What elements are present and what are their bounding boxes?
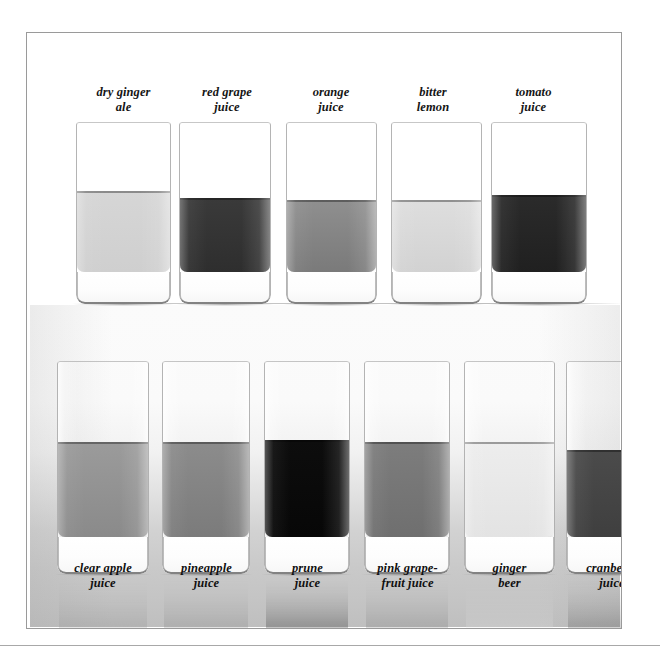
glass-label: cranberry juice [560,561,622,591]
glass-liquid [567,450,622,537]
glass-body [179,122,271,304]
glass-liquid [77,191,170,272]
glass-base [287,272,376,304]
glass-liquid [265,440,349,537]
glass-base [492,272,586,304]
glass-label: red grape juice [179,85,275,115]
glass-body [464,361,555,574]
page-bottom-rule [0,645,660,646]
glass-body [162,361,250,574]
glass-base [392,272,481,304]
glass-body [364,361,450,574]
juice-glass [76,122,171,304]
juice-glass [491,122,587,304]
glass-liquid [287,200,376,272]
juice-glass [286,122,377,304]
glass-body [566,361,622,574]
juice-glass [566,361,622,574]
glass-label: clear apple juice [52,561,154,591]
glass-body [76,122,171,304]
photo-plate: dry ginger alered grape juiceorange juic… [26,32,622,629]
glass-label: orange juice [280,85,382,115]
glass-liquid [492,195,586,272]
glass-body [391,122,482,304]
glass-liquid [58,442,148,537]
juice-glass [179,122,271,304]
glass-label: pineapple juice [158,561,255,591]
glass-label: prune juice [258,561,357,591]
glass-base [77,272,170,304]
glass-label: bitter lemon [383,85,483,115]
glass-body [491,122,587,304]
glass-base [180,272,270,304]
glass-liquid [365,442,449,537]
glass-liquid [392,200,481,272]
glass-liquid [180,198,270,272]
glass-label: dry ginger ale [73,85,174,115]
glass-liquid [163,442,249,537]
juice-glass [464,361,555,574]
glass-label: pink grape- fruit juice [358,561,457,591]
juice-glass [264,361,350,574]
glass-body [57,361,149,574]
glass-body [264,361,350,574]
glass-label: tomato juice [482,85,585,115]
glass-liquid [465,442,554,537]
juice-glass [57,361,149,574]
juice-glass [162,361,250,574]
juice-glass [364,361,450,574]
glass-label: ginger beer [458,561,561,591]
glass-body [286,122,377,304]
juice-glass [391,122,482,304]
